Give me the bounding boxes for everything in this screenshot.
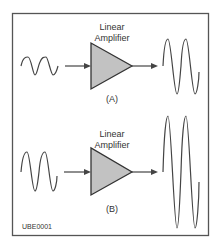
caption-b: (B) [106,204,118,214]
amplifier-diagram: Linear Amplifier (A) Linear Amplifier (B… [0,0,220,245]
amplifier-label-b-line2: Amplifier [94,140,129,150]
figure-id: UBE0001 [22,223,52,230]
amplifier-triangle-a [91,43,132,89]
amplifier-label-a-line1: Linear [99,22,124,32]
arrowhead-icon [151,63,158,69]
panel-a: Linear Amplifier (A) [21,22,199,104]
arrowhead-icon [84,169,91,175]
arrowhead-icon [84,63,91,69]
output-wave-b [163,116,199,228]
panel-b: Linear Amplifier (B) [21,116,199,228]
input-wave-a [21,57,58,75]
arrowhead-icon [151,169,158,175]
input-wave-b [21,152,57,191]
caption-a: (A) [106,94,118,104]
output-wave-a [163,39,199,94]
amplifier-label-b-line1: Linear [99,129,124,139]
amplifier-triangle-b [91,148,132,195]
amplifier-label-a-line2: Amplifier [94,33,129,43]
